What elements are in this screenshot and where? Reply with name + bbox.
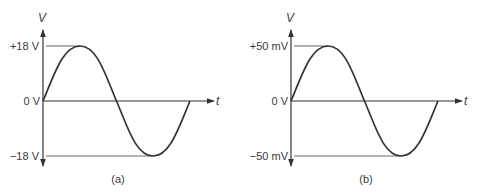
neg-peak-label: −50 mV — [250, 150, 289, 162]
caption-b: (b) — [359, 173, 372, 185]
pos-peak-label: +50 mV — [250, 40, 289, 52]
pos-peak-label: +18 V — [10, 40, 40, 52]
caption-a: (a) — [111, 173, 124, 185]
panel-a: V t +18 V 0 V −18 V (a) — [10, 11, 220, 185]
neg-peak-label: −18 V — [10, 150, 40, 162]
sine-wave-figure: V t +18 V 0 V −18 V (a) V t +50 mV 0 V −… — [0, 0, 483, 196]
t-axis-label: t — [464, 94, 468, 108]
panel-b: V t +50 mV 0 V −50 mV (b) — [250, 11, 468, 185]
zero-label: 0 V — [23, 95, 40, 107]
v-axis-label: V — [38, 11, 47, 25]
t-axis-label: t — [216, 94, 220, 108]
zero-label: 0 V — [271, 95, 288, 107]
v-axis-label: V — [286, 11, 295, 25]
